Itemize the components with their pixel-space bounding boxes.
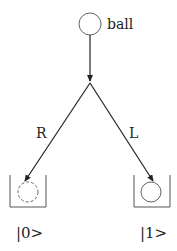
ball-branching-diagram: ball R L |0> |1> bbox=[0, 0, 177, 251]
branch-label-l: L bbox=[129, 125, 138, 141]
state-label-1: |1> bbox=[140, 224, 167, 242]
branch-arrow-l bbox=[90, 83, 153, 181]
branch-label-r: R bbox=[36, 125, 47, 141]
dashed-ball-icon bbox=[18, 182, 38, 202]
state-label-0: |0> bbox=[16, 224, 43, 242]
source-label: ball bbox=[107, 16, 134, 32]
solid-ball-icon bbox=[141, 182, 161, 202]
branch-arrow-r bbox=[25, 83, 90, 181]
source-ball-icon bbox=[79, 13, 101, 35]
